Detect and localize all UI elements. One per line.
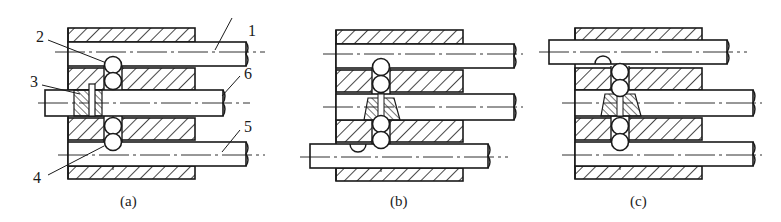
caption-c: (c) bbox=[630, 193, 647, 210]
callout-6: 6 bbox=[244, 65, 252, 82]
callout-5: 5 bbox=[244, 118, 252, 135]
caption-b: (b) bbox=[390, 193, 408, 210]
callout-2: 2 bbox=[36, 28, 44, 45]
caption-a: (a) bbox=[120, 193, 137, 210]
shift-rod-1 bbox=[55, 42, 265, 66]
interlock-diagram: 2 3 4 1 6 5 bbox=[0, 0, 781, 222]
callout-3: 3 bbox=[30, 73, 38, 90]
panel-b bbox=[300, 30, 523, 181]
callout-1: 1 bbox=[248, 22, 256, 39]
callout-4: 4 bbox=[33, 169, 41, 186]
panel-c bbox=[539, 28, 762, 179]
panel-a: 2 3 4 1 6 5 bbox=[30, 18, 265, 186]
